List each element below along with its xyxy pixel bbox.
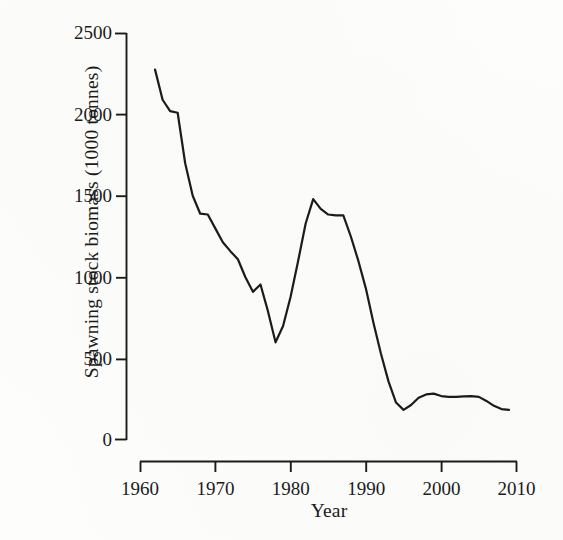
y-axis-title: Spawning stock biomass (1000 tonnes) bbox=[81, 66, 102, 379]
x-axis-spine bbox=[140, 462, 517, 473]
x-axis-title-wrapper: Year bbox=[140, 500, 518, 522]
y-axis-spine bbox=[115, 33, 127, 440]
x-tick-label-2000: 2000 bbox=[423, 478, 461, 500]
data-series-line bbox=[155, 70, 509, 410]
x-axis-title: Year bbox=[311, 500, 348, 521]
x-tick-label-1990: 1990 bbox=[347, 478, 385, 500]
y-axis-title-wrapper: Spawning stock biomass (1000 tonnes) bbox=[81, 12, 103, 432]
x-tick-label-1980: 1980 bbox=[272, 478, 310, 500]
y-tick-label-0: 0 bbox=[46, 429, 112, 451]
x-tick-label-1960: 1960 bbox=[121, 478, 159, 500]
x-tick-label-2010: 2010 bbox=[498, 478, 536, 500]
x-tick-label-1970: 1970 bbox=[196, 478, 234, 500]
x-axis-ticks bbox=[215, 462, 441, 473]
y-axis-ticks bbox=[116, 115, 127, 360]
figure-container: 2500 2000 1500 1000 500 0 1960 1970 1980… bbox=[0, 0, 563, 540]
